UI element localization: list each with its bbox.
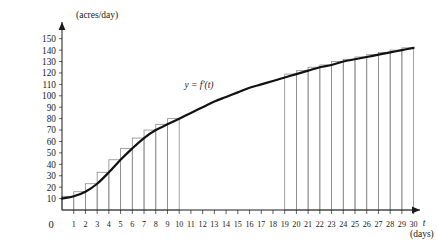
x-tick-label: 22 xyxy=(316,220,324,229)
riemann-rectangle xyxy=(367,55,379,210)
y-tick-label: 90 xyxy=(47,103,57,113)
x-tick-label: 5 xyxy=(119,220,123,229)
riemann-rectangle xyxy=(320,65,332,210)
x-tick-label: 1 xyxy=(72,220,76,229)
x-axis-unit-label: (days) xyxy=(410,229,434,240)
riemann-rectangle xyxy=(308,67,320,210)
derivative-curve xyxy=(62,48,414,199)
x-tick-label: 11 xyxy=(187,220,195,229)
x-tick-label: 23 xyxy=(328,220,336,229)
x-tick-label: 7 xyxy=(142,220,146,229)
x-tick-label: 26 xyxy=(363,220,371,229)
riemann-rectangle xyxy=(285,74,297,210)
derivative-area-chart: 102030405060708090100110120130140150 123… xyxy=(0,0,437,240)
riemann-rectangle xyxy=(390,50,402,210)
x-tick-label: 14 xyxy=(222,220,230,229)
y-tick-label: 50 xyxy=(47,148,57,158)
riemann-rectangle xyxy=(132,138,144,210)
x-tick-label: 12 xyxy=(199,220,207,229)
y-tick-label: 140 xyxy=(42,46,56,56)
y-tick-label: 40 xyxy=(47,160,57,170)
y-tick-label: 20 xyxy=(47,183,57,193)
riemann-rectangle xyxy=(402,48,414,210)
origin-label: 0 xyxy=(48,219,53,230)
x-tick-label: 10 xyxy=(175,220,183,229)
riemann-rectangle xyxy=(378,52,390,210)
y-tick-label: 110 xyxy=(42,80,56,90)
x-tick-label: 24 xyxy=(339,220,347,229)
left-riemann-rectangles xyxy=(62,119,179,210)
x-tick-label: 13 xyxy=(210,220,218,229)
x-tick-label: 29 xyxy=(398,220,406,229)
x-tick-label: 25 xyxy=(351,220,359,229)
x-tick-label: 20 xyxy=(292,220,300,229)
x-tick-label: 17 xyxy=(257,220,265,229)
riemann-rectangle xyxy=(296,71,308,210)
x-tick-label: 18 xyxy=(269,220,277,229)
curve-equation-label: y = f'(t) xyxy=(183,80,213,91)
riemann-rectangle xyxy=(167,119,179,210)
x-axis-arrow-icon xyxy=(412,207,420,214)
y-tick-label: 120 xyxy=(42,68,56,78)
x-tick-label: 8 xyxy=(154,220,158,229)
x-tick-labels: 1234567891011121314151617181920212223242… xyxy=(72,220,418,229)
x-tick-label: 2 xyxy=(83,220,87,229)
riemann-rectangle xyxy=(332,62,344,210)
x-axis-name-label: t xyxy=(423,218,426,228)
y-tick-label: 30 xyxy=(47,171,57,181)
y-tick-label: 10 xyxy=(47,194,57,204)
y-tick-label: 130 xyxy=(42,57,56,67)
x-tick-label: 30 xyxy=(410,220,418,229)
riemann-rectangle xyxy=(343,59,355,210)
x-tick-label: 27 xyxy=(374,220,382,229)
y-tick-labels: 102030405060708090100110120130140150 xyxy=(42,34,56,204)
riemann-rectangle xyxy=(156,124,168,210)
x-tick-label: 21 xyxy=(304,220,312,229)
x-tick-label: 15 xyxy=(234,220,242,229)
y-tick-label: 100 xyxy=(42,91,56,101)
x-axis-ticks xyxy=(74,210,414,214)
y-axis-unit-label: (acres/day) xyxy=(76,10,118,21)
x-tick-label: 16 xyxy=(245,220,253,229)
riemann-rectangle xyxy=(355,57,367,210)
y-tick-label: 60 xyxy=(47,137,57,147)
y-axis-arrow-icon xyxy=(59,22,66,30)
x-tick-label: 4 xyxy=(107,220,111,229)
x-tick-label: 19 xyxy=(281,220,289,229)
x-tick-label: 9 xyxy=(165,220,169,229)
x-tick-label: 28 xyxy=(386,220,394,229)
y-tick-label: 150 xyxy=(42,34,56,44)
y-tick-label: 70 xyxy=(47,125,57,135)
x-tick-label: 6 xyxy=(130,220,134,229)
riemann-rectangle xyxy=(144,130,156,210)
chart-container: 102030405060708090100110120130140150 123… xyxy=(0,0,437,240)
x-tick-label: 3 xyxy=(95,220,99,229)
y-tick-label: 80 xyxy=(47,114,57,124)
